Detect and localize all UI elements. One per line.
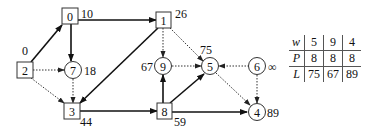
row-header: w bbox=[289, 35, 305, 51]
node-5: 5 75 bbox=[200, 43, 219, 75]
node-distance: 67 bbox=[141, 60, 153, 74]
node-distance: 10 bbox=[81, 7, 93, 21]
node-9: 9 67 bbox=[141, 58, 172, 75]
table-cell: 75 bbox=[305, 67, 324, 83]
node-id: 4 bbox=[254, 106, 260, 120]
table-row-w: w 5 9 4 bbox=[289, 35, 361, 51]
table-cell: 8 bbox=[324, 51, 343, 67]
node-distance: 59 bbox=[174, 115, 186, 128]
row-header: L bbox=[289, 67, 305, 83]
node-id: 0 bbox=[67, 10, 73, 24]
edge-5-4 bbox=[216, 73, 250, 105]
node-id: 5 bbox=[207, 60, 213, 74]
node-id: 8 bbox=[162, 105, 168, 119]
edge-2-0 bbox=[31, 25, 62, 62]
node-3: 3 44 bbox=[64, 103, 92, 128]
table-cell: 67 bbox=[324, 67, 343, 83]
table-cell: 8 bbox=[343, 51, 362, 67]
node-id: 9 bbox=[160, 60, 166, 74]
table-cell: 89 bbox=[343, 67, 362, 83]
row-header: P bbox=[289, 51, 305, 67]
edge-8-5 bbox=[170, 74, 204, 103]
node-7: 7 18 bbox=[65, 62, 97, 79]
node-id: 1 bbox=[161, 14, 167, 28]
node-distance: 0 bbox=[22, 44, 28, 58]
table-row-p: P 8 8 8 bbox=[289, 51, 361, 67]
node-distance: 26 bbox=[175, 7, 187, 21]
node-distance: 18 bbox=[84, 64, 96, 78]
node-6: 6 ∞ bbox=[249, 58, 277, 75]
table-row-l: L 75 67 89 bbox=[289, 67, 361, 83]
node-4: 4 89 bbox=[249, 104, 280, 121]
node-distance: 89 bbox=[267, 106, 279, 120]
node-id: 6 bbox=[254, 60, 260, 74]
node-distance: 75 bbox=[200, 43, 212, 57]
table-cell: 4 bbox=[343, 35, 362, 51]
node-id: 7 bbox=[70, 64, 76, 78]
edge-2-3 bbox=[31, 78, 64, 103]
node-id: 3 bbox=[69, 105, 75, 119]
node-8: 8 59 bbox=[157, 103, 186, 128]
node-distance: 44 bbox=[80, 115, 92, 128]
node-id: 2 bbox=[22, 64, 28, 78]
wpl-table: w 5 9 4 P 8 8 8 L 75 67 89 bbox=[289, 35, 361, 82]
table-cell: 5 bbox=[305, 35, 324, 51]
node-0: 0 10 bbox=[62, 7, 93, 24]
node-1: 1 26 bbox=[156, 7, 187, 28]
node-2: 2 0 bbox=[17, 44, 33, 78]
table-cell: 9 bbox=[324, 35, 343, 51]
edge-1-5 bbox=[170, 28, 203, 61]
table-cell: 8 bbox=[305, 51, 324, 67]
node-distance: ∞ bbox=[268, 60, 277, 74]
